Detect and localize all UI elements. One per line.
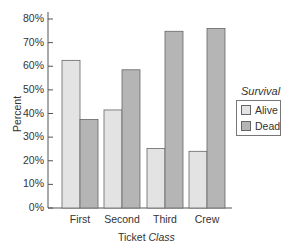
y-tick-label: 20% [8,154,44,166]
y-tick-label: 0% [8,201,44,213]
bar-crew-dead [207,28,225,208]
bar-first-alive [62,60,80,208]
bar-crew-alive [189,151,207,208]
bar-second-dead [122,70,140,208]
bar-third-alive [147,148,165,208]
legend-label-alive: Alive [255,104,278,116]
x-category-label: Crew [182,213,232,225]
legend-item-dead: Dead [241,120,280,132]
bars [62,28,225,208]
y-tick-label: 10% [8,177,44,189]
bar-second-alive [104,110,122,208]
legend-swatch-alive [241,105,251,115]
y-tick-label: 70% [8,36,44,48]
legend-title: Survival [241,85,280,97]
legend: Alive Dead [236,100,281,136]
legend-item-alive: Alive [241,104,278,116]
bar-third-dead [165,31,183,208]
y-tick-label: 60% [8,59,44,71]
y-axis-label: Percent [11,89,23,139]
legend-swatch-dead [241,121,251,131]
x-axis-label: Ticket Class [118,231,175,243]
bar-first-dead [80,119,98,208]
legend-label-dead: Dead [255,120,280,132]
y-tick-label: 80% [8,12,44,24]
